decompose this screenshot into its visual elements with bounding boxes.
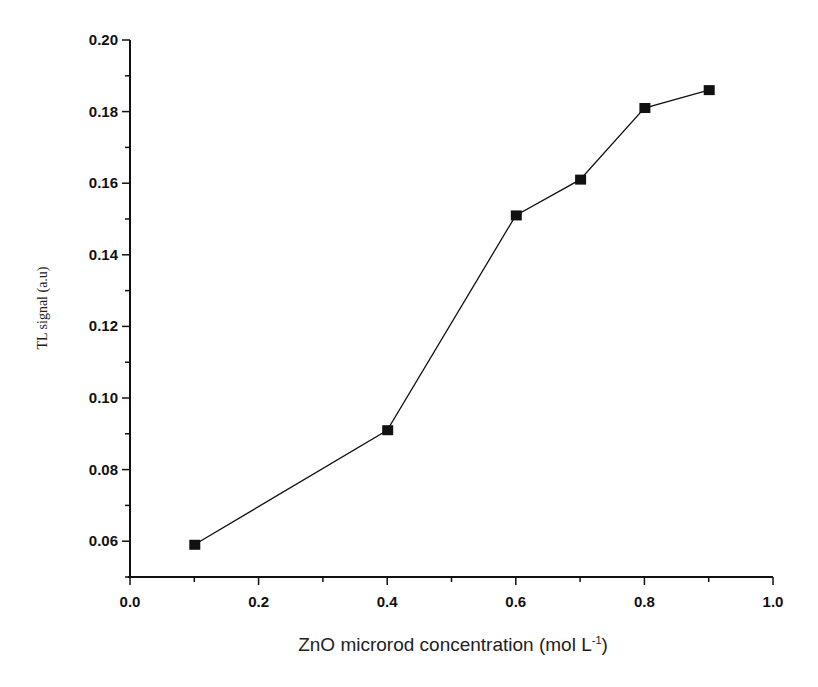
series-line <box>194 90 708 545</box>
y-tick-label: 0.10 <box>89 389 118 406</box>
y-tick-label: 0.18 <box>89 103 118 120</box>
data-series <box>189 85 714 550</box>
y-tick-label: 0.08 <box>89 461 118 478</box>
x-tick-label: 1.0 <box>763 593 784 610</box>
y-axis-ticks: 0.060.080.100.120.140.160.180.20 <box>89 31 130 577</box>
x-tick-label: 0.2 <box>248 593 269 610</box>
y-axis-label: TL signal (a.u) <box>35 266 51 349</box>
y-tick-label: 0.14 <box>89 246 119 263</box>
y-tick-label: 0.12 <box>89 317 118 334</box>
data-point-marker <box>704 85 715 95</box>
x-axis-label: ZnO microrod concentration (mol L-1) <box>298 634 608 655</box>
x-tick-label: 0.8 <box>634 593 655 610</box>
x-tick-label: 0.6 <box>505 593 526 610</box>
data-point-marker <box>189 540 200 550</box>
data-point-marker <box>575 175 586 185</box>
axes <box>128 40 773 577</box>
y-tick-label: 0.20 <box>89 31 118 48</box>
data-point-marker <box>511 210 522 220</box>
data-point-marker <box>639 103 650 113</box>
data-point-marker <box>382 425 393 435</box>
x-tick-label: 0.4 <box>377 593 399 610</box>
x-axis-ticks: 0.00.20.40.60.81.0 <box>120 577 784 610</box>
y-tick-label: 0.06 <box>89 532 118 549</box>
line-chart: 0.060.080.100.120.140.160.180.20 0.00.20… <box>0 0 818 687</box>
y-tick-label: 0.16 <box>89 174 118 191</box>
x-tick-label: 0.0 <box>120 593 141 610</box>
